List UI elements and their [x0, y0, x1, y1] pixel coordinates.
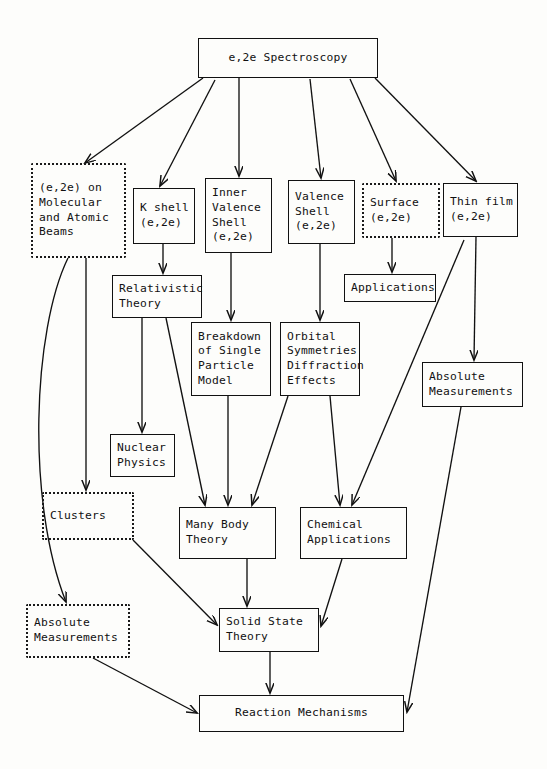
node-molecular-line-3: Beams: [39, 225, 118, 240]
node-manybody-line-1: Theory: [186, 533, 269, 548]
node-molecular-line-0: (e,2e) on: [39, 181, 118, 196]
node-nuclear-line-1: Physics: [117, 456, 168, 471]
node-thinfilm-line-0: Thin film: [450, 195, 511, 210]
node-molecular-beams[interactable]: (e,2e) on Molecular and Atomic Beams: [31, 163, 126, 258]
node-reaction-line-0: Reaction Mechanisms: [235, 706, 368, 721]
node-innervalence-line-2: Shell: [212, 216, 265, 231]
edge-thinfilm-absmeasr: [474, 237, 476, 360]
edge-molecular-absmeasl: [39, 258, 68, 602]
node-kshell-line-0: K shell: [140, 201, 188, 216]
node-orbital-symmetries[interactable]: Orbital Symmetries Diffraction Effects: [280, 322, 360, 396]
node-manybody-line-0: Many Body: [186, 518, 269, 533]
node-solid-state-theory[interactable]: Solid State Theory: [219, 608, 319, 652]
node-absmeasl-line-0: Absolute: [34, 616, 122, 631]
node-k-shell[interactable]: K shell (e,2e): [133, 188, 195, 244]
node-chemical-line-1: Applications: [307, 533, 400, 548]
node-surface[interactable]: Surface (e,2e): [362, 183, 440, 238]
node-innervalence-line-3: (e,2e): [212, 230, 265, 245]
node-chemical-line-0: Chemical: [307, 518, 400, 533]
node-breakdown-line-2: Particle: [198, 359, 264, 374]
node-applications-line-0: Applications: [351, 281, 429, 296]
node-thinfilm-line-1: (e,2e): [450, 210, 511, 225]
edge-chemical-solidstate: [321, 559, 342, 626]
node-solidstate-line-1: Theory: [226, 630, 312, 645]
node-absmeasr-line-1: Measurements: [429, 385, 516, 400]
diagram-canvas: e,2e Spectroscopy (e,2e) on Molecular an…: [0, 0, 547, 769]
node-root-line-0: e,2e Spectroscopy: [228, 51, 347, 66]
node-orbital-line-1: Symmetries: [287, 344, 353, 359]
node-breakdown-line-1: of Single: [198, 344, 264, 359]
node-relativistic-line-0: Relativistic: [119, 282, 195, 297]
node-root[interactable]: e,2e Spectroscopy: [198, 38, 378, 78]
node-breakdown-single-particle-model[interactable]: Breakdown of Single Particle Model: [191, 322, 271, 396]
node-solidstate-line-0: Solid State: [226, 615, 312, 630]
node-breakdown-line-0: Breakdown: [198, 330, 264, 345]
node-orbital-line-2: Diffraction: [287, 359, 353, 374]
node-valence-line-2: (e,2e): [295, 219, 348, 234]
node-innervalence-line-0: Inner: [212, 186, 265, 201]
node-innervalence-line-1: Valence: [212, 201, 265, 216]
node-kshell-line-1: (e,2e): [140, 216, 188, 231]
node-chemical-applications[interactable]: Chemical Applications: [300, 507, 407, 559]
node-molecular-line-2: and Atomic: [39, 211, 118, 226]
edge-root-molecular: [85, 78, 203, 163]
edge-root-kshell: [160, 80, 215, 186]
node-nuclear-physics[interactable]: Nuclear Physics: [110, 434, 175, 477]
node-orbital-line-3: Effects: [287, 374, 353, 389]
edge-absmeasl-reaction: [93, 658, 197, 713]
node-inner-valence-shell[interactable]: Inner Valence Shell (e,2e): [205, 178, 272, 253]
node-thin-film[interactable]: Thin film (e,2e): [443, 183, 518, 237]
node-breakdown-line-3: Model: [198, 374, 264, 389]
edge-orbital-chemical: [330, 396, 340, 505]
node-absmeasl-line-1: Measurements: [34, 631, 122, 646]
node-applications[interactable]: Applications: [344, 274, 436, 302]
edge-absmeasr-reaction: [407, 407, 461, 712]
node-relativistic-line-1: Theory: [119, 297, 195, 312]
node-orbital-line-0: Orbital: [287, 330, 353, 345]
edge-orbital-manybody: [252, 396, 288, 505]
node-valence-line-0: Valence: [295, 190, 348, 205]
node-relativistic-theory[interactable]: Relativistic Theory: [112, 275, 202, 318]
node-clusters-line-0: Clusters: [50, 509, 126, 524]
node-molecular-line-1: Molecular: [39, 196, 118, 211]
node-clusters[interactable]: Clusters: [42, 492, 134, 540]
node-valence-line-1: Shell: [295, 205, 348, 220]
node-many-body-theory[interactable]: Many Body Theory: [179, 507, 276, 559]
node-valence-shell[interactable]: Valence Shell (e,2e): [288, 180, 355, 244]
node-surface-line-1: (e,2e): [370, 211, 432, 226]
edge-root-valence: [310, 79, 321, 178]
edge-root-surface: [350, 79, 396, 181]
node-absolute-measurements-left[interactable]: Absolute Measurements: [26, 604, 130, 658]
node-absmeasr-line-0: Absolute: [429, 370, 516, 385]
edge-root-thinfilm: [375, 78, 476, 181]
node-surface-line-0: Surface: [370, 196, 432, 211]
node-absolute-measurements-right[interactable]: Absolute Measurements: [422, 362, 523, 407]
node-nuclear-line-0: Nuclear: [117, 441, 168, 456]
node-reaction-mechanisms[interactable]: Reaction Mechanisms: [199, 695, 404, 732]
